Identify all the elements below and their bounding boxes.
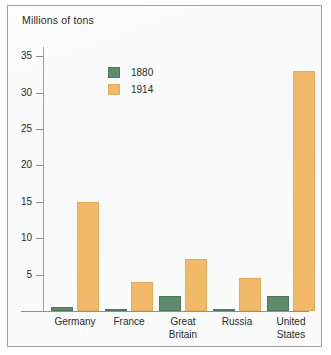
bar-germany-1914[interactable]: [77, 202, 99, 311]
chart-title: Millions of tons: [22, 14, 94, 26]
y-tick-label-35: 35: [8, 51, 32, 61]
legend-item-1914[interactable]: 1914: [108, 81, 153, 98]
x-label-united-states: United States: [259, 316, 323, 341]
legend-label-1914: 1914: [131, 84, 153, 95]
y-tick-25: [36, 129, 43, 130]
y-tick-label-20: 20: [8, 160, 32, 170]
bar-united-states-1880[interactable]: [267, 296, 289, 311]
y-tick-10: [36, 238, 43, 239]
y-tick-5: [36, 275, 43, 276]
y-tick-label-5: 5: [8, 270, 32, 280]
bar-united-states-1914[interactable]: [293, 71, 315, 311]
y-tick-label-15: 15: [8, 197, 32, 207]
y-tick-35: [36, 56, 43, 57]
y-tick-label-30: 30: [8, 88, 32, 98]
y-tick-30: [36, 93, 43, 94]
y-tick-label-10: 10: [8, 233, 32, 243]
y-tick-20: [36, 165, 43, 166]
legend-swatch-icon-1914: [108, 84, 120, 95]
chart-legend: 1880 1914: [108, 64, 153, 98]
bar-great-britain-1880[interactable]: [159, 296, 181, 311]
bar-great-britain-1914[interactable]: [185, 259, 207, 311]
x-axis-line: [21, 311, 309, 312]
legend-item-1880[interactable]: 1880: [108, 64, 153, 81]
bar-france-1914[interactable]: [131, 282, 153, 311]
chart-screenshot: Millions of tons 5101520253035 GermanyFr…: [0, 0, 331, 355]
plot-area: [43, 49, 314, 311]
y-tick-15: [36, 202, 43, 203]
bar-germany-1880[interactable]: [51, 307, 73, 311]
legend-swatch-icon-1880: [108, 67, 120, 78]
bar-russia-1880[interactable]: [213, 309, 235, 311]
bar-russia-1914[interactable]: [239, 278, 261, 311]
legend-label-1880: 1880: [131, 67, 153, 78]
y-tick-label-25: 25: [8, 124, 32, 134]
bar-france-1880[interactable]: [105, 309, 127, 311]
